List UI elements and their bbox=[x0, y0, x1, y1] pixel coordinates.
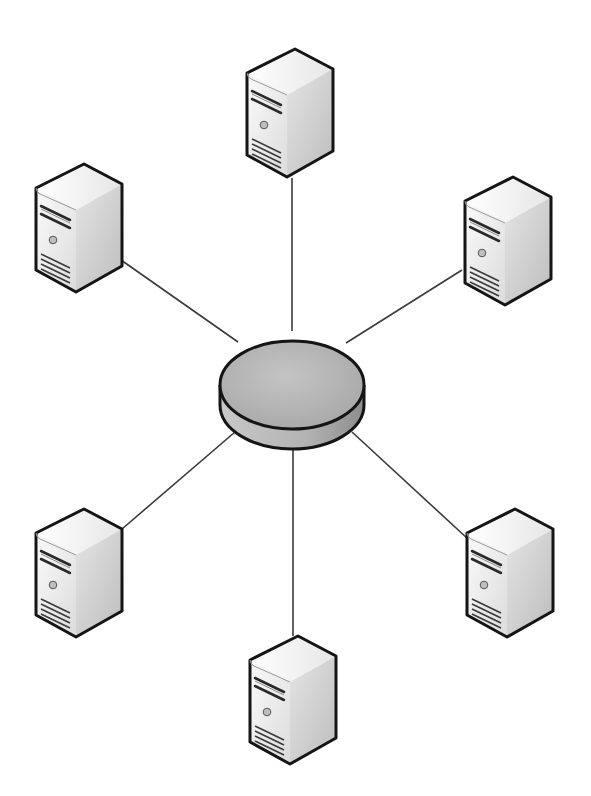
server-top[interactable] bbox=[247, 49, 333, 177]
server-bottom[interactable] bbox=[250, 636, 336, 764]
server-tower-icon bbox=[465, 177, 551, 305]
central-hub[interactable] bbox=[220, 341, 364, 449]
network-diagram bbox=[0, 0, 591, 796]
server-lower-left[interactable] bbox=[36, 509, 122, 637]
server-upper-right[interactable] bbox=[465, 177, 551, 305]
server-tower-icon bbox=[36, 164, 122, 292]
link-lower-right bbox=[352, 432, 468, 539]
server-upper-left[interactable] bbox=[36, 164, 122, 292]
server-tower-icon bbox=[36, 509, 122, 637]
star-topology-diagram bbox=[0, 0, 591, 796]
link-lower-left bbox=[122, 432, 235, 529]
link-upper-right bbox=[346, 270, 462, 343]
server-tower-icon bbox=[247, 49, 333, 177]
link-upper-left bbox=[121, 260, 238, 342]
server-lower-right[interactable] bbox=[467, 509, 553, 637]
server-tower-icon bbox=[250, 636, 336, 764]
server-tower-icon bbox=[467, 509, 553, 637]
